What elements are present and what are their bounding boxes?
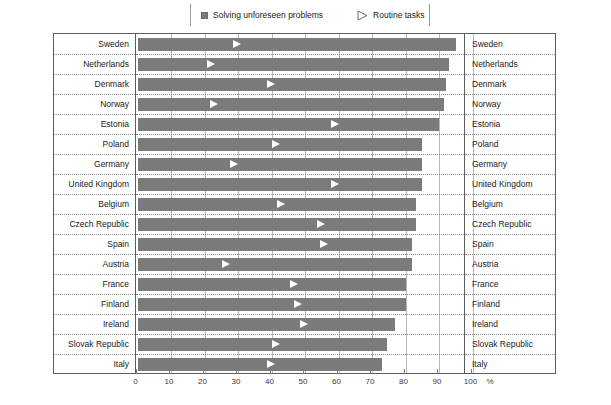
- table-row: Finland: [54, 294, 135, 314]
- marker-routine-tasks: [294, 300, 302, 308]
- category-label-left: Netherlands: [83, 54, 129, 74]
- axis-tick: [236, 369, 237, 374]
- bar-solving-unforeseen-problems: [138, 138, 423, 151]
- category-label-left: Czech Republic: [69, 214, 129, 234]
- table-row: Spain: [465, 234, 555, 254]
- table-row: Czech Republic: [54, 214, 135, 234]
- bar-solving-unforeseen-problems: [138, 218, 416, 231]
- row-separator: [54, 94, 135, 95]
- category-label-right: Denmark: [472, 74, 506, 94]
- category-label-right: United Kingdom: [472, 174, 532, 194]
- row-separator: [54, 254, 135, 255]
- table-row: United Kingdom: [54, 174, 135, 194]
- category-label-right: Slovak Republic: [472, 334, 533, 354]
- axis-tick: [203, 369, 204, 374]
- row-separator: [136, 134, 464, 135]
- marker-routine-tasks: [277, 200, 285, 208]
- table-row: Ireland: [465, 314, 555, 334]
- category-label-left: Italy: [113, 354, 129, 374]
- gray-square-swatch-icon: [201, 12, 208, 19]
- row-separator: [54, 114, 135, 115]
- row-separator: [465, 294, 555, 295]
- table-row: Spain: [54, 234, 135, 254]
- bar-solving-unforeseen-problems: [138, 318, 396, 331]
- row-separator: [465, 94, 555, 95]
- axis-tick-label: 0: [133, 377, 137, 386]
- table-row: Denmark: [465, 74, 555, 94]
- bar-solving-unforeseen-problems: [138, 118, 440, 131]
- bar-solving-unforeseen-problems: [138, 298, 406, 311]
- row-separator: [465, 234, 555, 235]
- table-row: Italy: [54, 354, 135, 374]
- category-label-right: Italy: [472, 354, 488, 374]
- bar-solving-unforeseen-problems: [138, 178, 423, 191]
- row-separator: [136, 194, 464, 195]
- category-label-right: Estonia: [472, 114, 500, 134]
- row-separator: [54, 354, 135, 355]
- row-separator: [465, 254, 555, 255]
- row-separator: [136, 254, 464, 255]
- axis-tick: [437, 369, 438, 374]
- table-row: Italy: [465, 354, 555, 374]
- marker-routine-tasks: [222, 260, 230, 268]
- bar-solving-unforeseen-problems: [138, 158, 423, 171]
- table-row: Austria: [54, 254, 135, 274]
- white-triangle-swatch-icon: [357, 10, 368, 21]
- table-row: Netherlands: [54, 54, 135, 74]
- bar-solving-unforeseen-problems: [138, 258, 413, 271]
- category-label-right: Ireland: [472, 314, 498, 334]
- row-separator: [136, 94, 464, 95]
- table-row: Czech Republic: [465, 214, 555, 234]
- row-separator: [54, 134, 135, 135]
- row-separator: [136, 114, 464, 115]
- table-row: Estonia: [54, 114, 135, 134]
- axis-tick-label: 30: [232, 377, 241, 386]
- row-separator: [54, 294, 135, 295]
- row-separator: [465, 114, 555, 115]
- row-separator: [136, 74, 464, 75]
- marker-routine-tasks: [233, 40, 241, 48]
- category-label-left: Estonia: [101, 114, 129, 134]
- axis-tick: [370, 369, 371, 374]
- axis-tick-label: 40: [265, 377, 274, 386]
- category-label-right: Germany: [472, 154, 507, 174]
- category-label-right: Sweden: [472, 34, 503, 54]
- bar-solving-unforeseen-problems: [138, 38, 456, 51]
- category-label-left: Ireland: [103, 314, 129, 334]
- table-row: France: [54, 274, 135, 294]
- bar-solving-unforeseen-problems: [138, 358, 383, 371]
- axis-tick: [471, 369, 472, 374]
- left-category-labels: SwedenNetherlandsDenmarkNorwayEstoniaPol…: [54, 34, 135, 373]
- category-label-right: France: [472, 274, 498, 294]
- row-separator: [54, 314, 135, 315]
- table-row: Belgium: [54, 194, 135, 214]
- row-separator: [54, 174, 135, 175]
- right-category-labels: SwedenNetherlandsDenmarkNorwayEstoniaPol…: [465, 34, 555, 373]
- table-row: Germany: [54, 154, 135, 174]
- category-label-left: Belgium: [98, 194, 129, 214]
- bar-solving-unforeseen-problems: [138, 278, 406, 291]
- axis-tick: [136, 369, 137, 374]
- row-separator: [465, 194, 555, 195]
- row-separator: [136, 354, 464, 355]
- table-row: Slovak Republic: [54, 334, 135, 354]
- marker-routine-tasks: [300, 320, 308, 328]
- category-label-right: Czech Republic: [472, 214, 532, 234]
- row-separator: [54, 74, 135, 75]
- bar-solving-unforeseen-problems: [138, 238, 413, 251]
- category-label-left: Austria: [103, 254, 129, 274]
- axis-tick-label: 20: [198, 377, 207, 386]
- row-separator: [54, 154, 135, 155]
- row-separator: [54, 234, 135, 235]
- table-row: Poland: [465, 134, 555, 154]
- category-label-left: Poland: [103, 134, 129, 154]
- chart-legend: Solving unforeseen problems Routine task…: [190, 4, 430, 26]
- row-separator: [54, 274, 135, 275]
- bar-solving-unforeseen-problems: [138, 58, 450, 71]
- chart-frame: SwedenNetherlandsDenmarkNorwayEstoniaPol…: [53, 33, 556, 374]
- marker-routine-tasks: [230, 160, 238, 168]
- marker-routine-tasks: [272, 140, 280, 148]
- row-separator: [136, 174, 464, 175]
- marker-routine-tasks: [320, 240, 328, 248]
- category-label-right: Netherlands: [472, 54, 518, 74]
